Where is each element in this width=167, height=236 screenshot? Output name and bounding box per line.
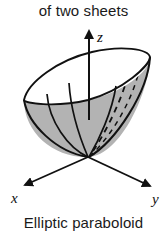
- elliptic-paraboloid-diagram: z x y: [0, 0, 167, 236]
- figure-panel: of two sheets: [0, 0, 167, 236]
- y-axis: [88, 157, 150, 186]
- caption-bottom: Elliptic paraboloid: [0, 214, 167, 231]
- x-axis-label: x: [10, 190, 18, 206]
- z-axis-label: z: [96, 29, 103, 45]
- y-axis-label: y: [150, 191, 159, 207]
- x-axis: [25, 157, 88, 185]
- paraboloid-surface: [24, 48, 150, 157]
